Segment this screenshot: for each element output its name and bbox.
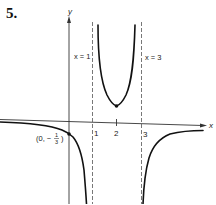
- y-intercept-frac-den: 3: [55, 139, 58, 145]
- y-axis-arrow-icon: [67, 16, 71, 23]
- y-axis-label: y: [67, 7, 73, 16]
- curves: [0, 25, 203, 204]
- local-min-point: [115, 104, 119, 108]
- x-tick-label-2: 2: [114, 129, 119, 138]
- y-intercept-frac-num: 1: [55, 132, 58, 138]
- asymptote-label-x-1: x = 1: [74, 52, 90, 61]
- y-intercept-label-suffix: ): [61, 134, 64, 143]
- function-graph: y x 1 2 3 x = 1 x = 3 (0, − 1 3 ): [0, 0, 216, 204]
- x-axis: x 1 2 3: [0, 119, 214, 139]
- asymptote-x-1: x = 1: [74, 22, 93, 204]
- y-axis: y: [67, 7, 73, 204]
- y-intercept-label: (0, − 1 3 ): [36, 132, 64, 145]
- y-intercept-label-prefix: (0, −: [36, 134, 52, 143]
- asymptote-label-x-3: x = 3: [145, 53, 161, 62]
- curve-middle-branch: [98, 25, 135, 106]
- x-tick-label-3: 3: [143, 130, 148, 139]
- x-axis-arrow-icon: [200, 123, 207, 127]
- y-intercept-point: [67, 132, 71, 136]
- curve-right-branch: [143, 131, 203, 205]
- x-axis-label: x: [208, 121, 214, 130]
- x-tick-label-1: 1: [94, 129, 99, 138]
